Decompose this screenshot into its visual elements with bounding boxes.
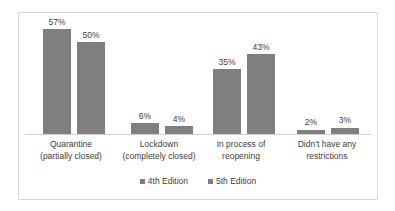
- bar-wrap-no-restrictions-4th: 2%: [297, 13, 325, 134]
- category-label-lockdown: Lockdown (completely closed): [115, 139, 203, 162]
- bar-value-reopening-5th: 43%: [247, 42, 275, 52]
- bar-value-no-restrictions-4th: 2%: [297, 117, 325, 127]
- chart-frame: 57% 50% 6% 4%: [18, 12, 378, 200]
- category-label-lockdown-line1: Lockdown: [115, 139, 203, 151]
- chart-legend: 4th Edition 5th Edition: [19, 176, 377, 186]
- bar-wrap-no-restrictions-5th: 3%: [331, 13, 359, 134]
- category-axis-line: [25, 134, 371, 135]
- bar-value-reopening-4th: 35%: [213, 57, 241, 67]
- legend-label-4th-edition: 4th Edition: [148, 176, 188, 186]
- legend-swatch-icon-5th-edition: [208, 179, 213, 184]
- category-label-quarantine-line2: (partially closed): [27, 151, 115, 163]
- plot-area: 57% 50% 6% 4%: [19, 13, 377, 199]
- bar-quarantine-5th[interactable]: [77, 42, 105, 134]
- bar-no-restrictions-5th[interactable]: [331, 128, 359, 134]
- bar-value-quarantine-4th: 57%: [43, 17, 71, 27]
- legend-item-4th-edition[interactable]: 4th Edition: [140, 176, 188, 186]
- bar-value-lockdown-4th: 6%: [131, 111, 159, 121]
- bar-group-no-restrictions: 2% 3%: [289, 13, 361, 134]
- bar-group-reopening: 35% 43%: [205, 13, 277, 134]
- category-label-no-restrictions-line2: restrictions: [281, 151, 373, 163]
- bar-value-lockdown-5th: 4%: [165, 114, 193, 124]
- bar-wrap-quarantine-4th: 57%: [43, 13, 71, 134]
- bar-group-lockdown: 6% 4%: [123, 13, 195, 134]
- bar-lockdown-5th[interactable]: [165, 126, 193, 134]
- legend-label-5th-edition: 5th Edition: [216, 176, 256, 186]
- category-label-reopening-line1: In process of: [197, 139, 285, 151]
- bar-wrap-quarantine-5th: 50%: [77, 13, 105, 134]
- bar-no-restrictions-4th[interactable]: [297, 130, 325, 134]
- category-label-quarantine-line1: Quarantine: [27, 139, 115, 151]
- bar-wrap-reopening-5th: 43%: [247, 13, 275, 134]
- bar-value-quarantine-5th: 50%: [77, 30, 105, 40]
- bar-reopening-5th[interactable]: [247, 54, 275, 134]
- bar-quarantine-4th[interactable]: [43, 29, 71, 134]
- bar-wrap-lockdown-5th: 4%: [165, 13, 193, 134]
- category-label-quarantine: Quarantine (partially closed): [27, 139, 115, 162]
- category-label-no-restrictions-line1: Didn’t have any: [281, 139, 373, 151]
- category-label-reopening-line2: reopening: [197, 151, 285, 163]
- bar-reopening-4th[interactable]: [213, 69, 241, 134]
- bar-value-no-restrictions-5th: 3%: [331, 115, 359, 125]
- bar-wrap-reopening-4th: 35%: [213, 13, 241, 134]
- category-label-no-restrictions: Didn’t have any restrictions: [281, 139, 373, 162]
- bar-lockdown-4th[interactable]: [131, 123, 159, 134]
- category-label-reopening: In process of reopening: [197, 139, 285, 162]
- chart-screenshot: 57% 50% 6% 4%: [0, 0, 395, 211]
- category-label-lockdown-line2: (completely closed): [115, 151, 203, 163]
- legend-swatch-icon-4th-edition: [140, 179, 145, 184]
- bar-group-quarantine: 57% 50%: [35, 13, 107, 134]
- bar-wrap-lockdown-4th: 6%: [131, 13, 159, 134]
- legend-item-5th-edition[interactable]: 5th Edition: [208, 176, 256, 186]
